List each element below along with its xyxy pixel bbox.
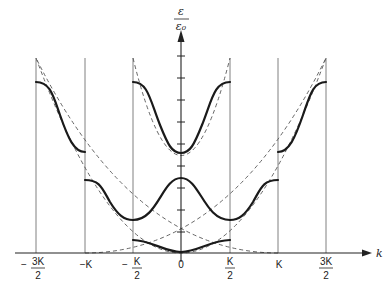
band-2-right: [230, 180, 278, 220]
svg-text:K: K: [134, 256, 141, 267]
tick-label-minus-k: −K: [80, 259, 93, 270]
band-3-left: [36, 82, 85, 152]
y-axis-label-denominator: ε₀: [176, 20, 187, 33]
band-3-right: [278, 82, 326, 152]
band-2-left: [85, 180, 133, 220]
band-structure-diagram: k ε ε₀: [0, 0, 392, 293]
svg-text:0: 0: [178, 259, 184, 270]
svg-text:−: −: [122, 259, 128, 270]
svg-text:K: K: [276, 259, 283, 270]
svg-text:2: 2: [35, 270, 41, 281]
tick-label-minus-k-half: − K 2: [122, 256, 142, 281]
svg-text:2: 2: [323, 270, 329, 281]
tick-label-k-half: K 2: [225, 256, 235, 281]
x-axis-tick-labels: − 3K 2 −K − K 2 0 K 2 K: [21, 256, 333, 281]
y-axis-label-numerator: ε: [178, 5, 184, 18]
svg-text:K: K: [227, 256, 234, 267]
x-axis-arrow-icon: [362, 250, 372, 257]
tick-label-k: K: [276, 259, 283, 270]
svg-text:3K: 3K: [32, 256, 45, 267]
tick-label-zero: 0: [178, 259, 184, 270]
svg-text:2: 2: [227, 270, 233, 281]
x-axis-label: k: [376, 247, 383, 260]
svg-text:3K: 3K: [320, 256, 333, 267]
svg-text:2: 2: [134, 270, 140, 281]
parabola-shifted-right: [36, 58, 278, 253]
tick-label-3k-half: 3K 2: [319, 256, 333, 281]
svg-text:−K: −K: [80, 259, 93, 270]
tick-label-minus-3k-half: − 3K 2: [21, 256, 45, 281]
y-axis: ε ε₀: [174, 5, 189, 262]
parabola-shifted-left: [85, 58, 326, 253]
svg-text:−: −: [21, 259, 27, 270]
